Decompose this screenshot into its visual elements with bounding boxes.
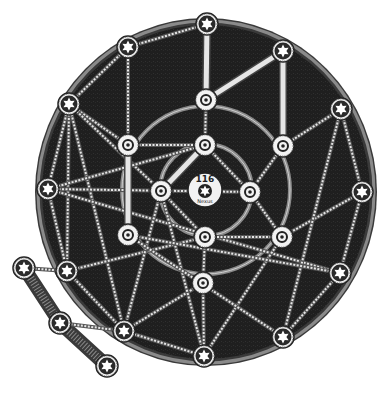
star-node-s10[interactable]	[37, 178, 59, 200]
ring-node-r10[interactable]	[192, 272, 214, 294]
star-node-c1[interactable]	[13, 257, 35, 279]
target-dot	[204, 98, 208, 102]
center-node-number: 116	[196, 174, 215, 184]
ring-node-r2[interactable]	[117, 134, 139, 156]
target-dot	[203, 143, 207, 147]
star-node-s11[interactable]	[58, 93, 80, 115]
star-node-s8[interactable]	[113, 320, 135, 342]
target-dot	[280, 235, 284, 239]
ring-node-r7[interactable]	[117, 224, 139, 246]
star-node-c3[interactable]	[96, 355, 118, 377]
target-dot	[248, 190, 252, 194]
ring-node-r9[interactable]	[271, 226, 293, 248]
ring-node-r3[interactable]	[194, 134, 216, 156]
star-node-s9[interactable]	[56, 260, 78, 282]
target-dot	[281, 144, 285, 148]
star-node-s6[interactable]	[272, 326, 294, 348]
target-dot	[201, 281, 205, 285]
center-node[interactable]: 116 Nexus	[188, 173, 222, 207]
center-node-name: Nexus	[197, 198, 213, 204]
ring-node-r6[interactable]	[239, 181, 261, 203]
star-node-s4[interactable]	[351, 181, 373, 203]
target-dot	[126, 143, 130, 147]
star-node-s1[interactable]	[196, 13, 218, 35]
star-node-s3[interactable]	[330, 98, 352, 120]
star-icon	[198, 184, 212, 198]
star-node-c2[interactable]	[49, 312, 71, 334]
star-node-s12[interactable]	[117, 36, 139, 58]
star-node-s5[interactable]	[329, 262, 351, 284]
ring-node-r4[interactable]	[272, 135, 294, 157]
star-node-s7[interactable]	[193, 345, 215, 367]
star-node-s2[interactable]	[272, 40, 294, 62]
target-dot	[203, 235, 207, 239]
ring-node-r5[interactable]	[150, 180, 172, 202]
game-board: 116 Nexus	[0, 0, 387, 394]
target-dot	[126, 233, 130, 237]
target-dot	[159, 189, 163, 193]
ring-node-r8[interactable]	[194, 226, 216, 248]
ring-node-r1[interactable]	[195, 89, 217, 111]
